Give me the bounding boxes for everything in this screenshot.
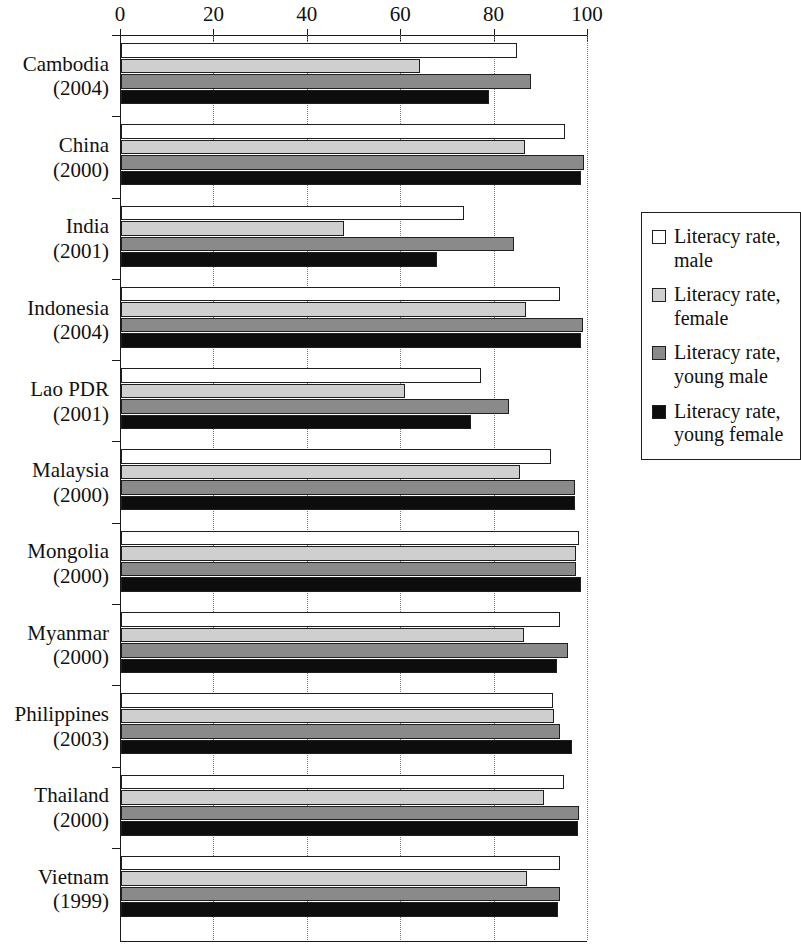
category-label: Philippines(2003) <box>14 702 109 752</box>
bar-2 <box>121 237 514 252</box>
legend-label-line1: Literacy rate, <box>674 225 781 247</box>
bar-0 <box>121 775 564 790</box>
category-row: China(2000) <box>0 117 801 198</box>
category-country: Lao PDR <box>30 377 109 401</box>
category-country: Indonesia <box>27 296 109 320</box>
category-tick-mark <box>112 604 121 605</box>
bar-0 <box>121 856 560 871</box>
category-country: Philippines <box>14 702 109 726</box>
bar-group <box>121 531 801 598</box>
bar-2 <box>121 318 583 333</box>
bar-3 <box>121 171 581 186</box>
bar-2 <box>121 480 575 495</box>
bar-group <box>121 124 801 191</box>
x-tick-label-60: 60 <box>390 2 411 26</box>
category-label: Malaysia(2000) <box>32 458 109 508</box>
bar-3 <box>121 821 578 836</box>
category-row: Cambodia(2004) <box>0 36 801 117</box>
legend-item[interactable]: Literacy rate,young female <box>652 400 794 447</box>
legend-label-line2: female <box>674 307 781 331</box>
category-country: Vietnam <box>38 865 109 889</box>
x-tick-label-40: 40 <box>296 2 317 26</box>
bar-3 <box>121 577 581 592</box>
category-row: Myanmar(2000) <box>0 605 801 686</box>
bar-3 <box>121 333 581 348</box>
category-label: Myanmar(2000) <box>27 621 109 671</box>
legend-swatch-icon <box>652 405 666 419</box>
bar-2 <box>121 724 560 739</box>
category-tick-mark <box>112 685 121 686</box>
category-year: (2001) <box>53 239 109 264</box>
bar-group <box>121 856 801 923</box>
x-tick-label-20: 20 <box>203 2 224 26</box>
category-label: India(2001) <box>53 214 109 264</box>
bar-1 <box>121 628 524 643</box>
category-country: China <box>59 133 109 157</box>
bar-1 <box>121 546 576 561</box>
category-label: Mongolia(2000) <box>27 540 109 590</box>
category-row: Mongolia(2000) <box>0 524 801 605</box>
legend-item[interactable]: Literacy rate,young male <box>652 341 794 388</box>
category-label: Thailand(2000) <box>34 784 109 834</box>
chart-page: 020406080100 Cambodia(2004)China(2000)In… <box>0 0 801 944</box>
bar-1 <box>121 140 525 155</box>
category-tick-mark <box>112 767 121 768</box>
legend-label-line1: Literacy rate, <box>674 283 781 305</box>
category-label: Lao PDR(2001) <box>30 377 109 427</box>
category-label: Cambodia(2004) <box>23 52 109 102</box>
category-country: Mongolia <box>27 540 109 564</box>
category-year: (2000) <box>53 158 109 183</box>
bar-2 <box>121 887 560 902</box>
bar-2 <box>121 562 576 577</box>
category-country: India <box>66 214 109 238</box>
x-tick-label-0: 0 <box>115 2 126 26</box>
bar-3 <box>121 902 558 917</box>
x-tick-label-80: 80 <box>483 2 504 26</box>
bar-3 <box>121 659 557 674</box>
legend-swatch-icon <box>652 288 666 302</box>
category-tick-mark <box>112 279 121 280</box>
category-country: Cambodia <box>23 52 109 76</box>
category-year: (2000) <box>27 646 109 671</box>
category-year: (2000) <box>32 483 109 508</box>
legend-label-line1: Literacy rate, <box>674 341 781 363</box>
bar-1 <box>121 384 405 399</box>
bar-group <box>121 612 801 679</box>
bar-3 <box>121 740 572 755</box>
bar-3 <box>121 415 471 430</box>
bar-group <box>121 775 801 842</box>
legend-label: Literacy rate,young female <box>674 400 783 447</box>
category-tick-mark <box>112 523 121 524</box>
legend-label: Literacy rate,female <box>674 283 781 330</box>
category-row: Thailand(2000) <box>0 768 801 849</box>
category-row: Vietnam(1999) <box>0 849 801 930</box>
plot-bottom-border <box>120 941 587 942</box>
bar-1 <box>121 302 526 317</box>
bar-2 <box>121 643 568 658</box>
x-tick-label-100: 100 <box>571 2 603 26</box>
category-tick-mark <box>112 441 121 442</box>
bar-0 <box>121 43 517 58</box>
bar-1 <box>121 709 554 724</box>
category-tick-mark <box>112 198 121 199</box>
legend-label-line1: Literacy rate, <box>674 400 781 422</box>
category-label: Vietnam(1999) <box>38 865 109 915</box>
legend-item[interactable]: Literacy rate,male <box>652 225 794 272</box>
category-year: (2004) <box>23 77 109 102</box>
category-row: Philippines(2003) <box>0 686 801 767</box>
bar-3 <box>121 496 575 511</box>
category-country: Thailand <box>34 784 109 808</box>
category-label: Indonesia(2004) <box>27 296 109 346</box>
bar-2 <box>121 399 509 414</box>
bar-1 <box>121 59 420 74</box>
bar-0 <box>121 206 464 221</box>
category-tick-mark <box>112 116 121 117</box>
legend-label-line2: young male <box>674 365 781 389</box>
legend-label: Literacy rate,male <box>674 225 781 272</box>
bar-2 <box>121 806 579 821</box>
bar-1 <box>121 871 527 886</box>
bar-0 <box>121 693 553 708</box>
bar-0 <box>121 368 481 383</box>
legend-item[interactable]: Literacy rate,female <box>652 283 794 330</box>
category-year: (2000) <box>34 808 109 833</box>
